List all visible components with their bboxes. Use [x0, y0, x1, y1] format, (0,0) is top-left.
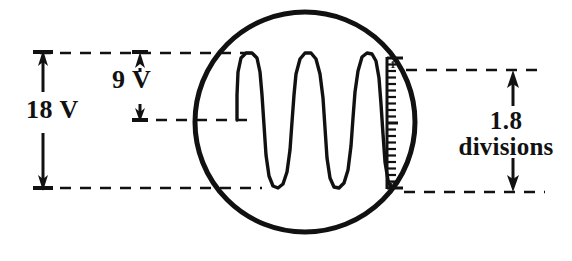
label-divisions-value: 1.8: [443, 108, 569, 134]
vertical-ruler: [387, 57, 403, 189]
label-18-volts: 18 V: [26, 96, 79, 123]
ruler-label-bottom: 0: [390, 179, 396, 191]
label-divisions: 1.8 divisions: [443, 108, 569, 161]
ruler-label-top: 1: [390, 58, 396, 70]
oscilloscope-figure: 18 V 9 V 1.8 divisions 1 0: [0, 0, 572, 261]
label-divisions-word: divisions: [443, 134, 569, 160]
waveform-trace: [237, 53, 391, 188]
dimension-9v-bottom-tick: [132, 118, 148, 122]
dimension-18v-bottom-tick: [33, 186, 53, 190]
label-9-volts: 9 V: [112, 66, 151, 93]
